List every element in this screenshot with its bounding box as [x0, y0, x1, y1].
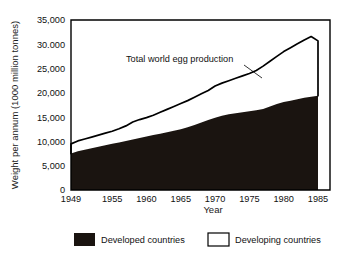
- x-tick-label: 1955: [102, 194, 122, 204]
- y-tick-label: 5,000: [42, 161, 65, 171]
- y-tick-label: 15,000: [37, 113, 65, 123]
- egg-production-area-chart: Weight per annum (1000 million tonnes) 0…: [0, 0, 357, 263]
- legend-label-developed: Developed countries: [101, 235, 185, 245]
- x-tick-label: 1970: [205, 194, 225, 204]
- x-axis-label: Year: [203, 204, 222, 215]
- legend-swatch-developed: [74, 233, 95, 246]
- x-tick-label: 1965: [171, 194, 191, 204]
- y-tick-label: 35,000: [37, 15, 65, 25]
- y-tick-label: 20,000: [37, 88, 65, 98]
- y-tick-label: 10,000: [37, 137, 65, 147]
- x-tick-label: 1949: [61, 194, 81, 204]
- x-tick-label: 1985: [308, 194, 328, 204]
- legend-label-developing: Developing countries: [235, 235, 321, 245]
- y-axis-label: Weight per annum (1000 million tonnes): [9, 21, 20, 189]
- y-tick-label: 25,000: [37, 64, 65, 74]
- annotation-text: Total world egg production: [126, 54, 233, 64]
- x-tick-label: 1960: [136, 194, 156, 204]
- legend-swatch-developing: [208, 233, 229, 246]
- x-tick-label: 1975: [239, 194, 259, 204]
- y-tick-label: 30.000: [37, 40, 65, 50]
- x-tick-label: 1980: [273, 194, 293, 204]
